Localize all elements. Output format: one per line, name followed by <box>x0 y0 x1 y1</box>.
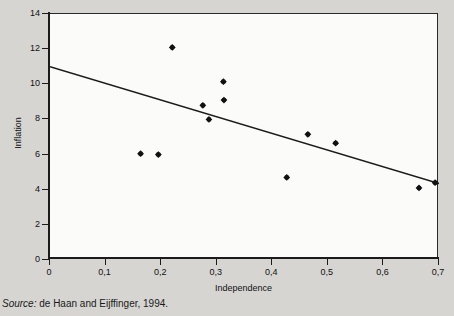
y-axis-tick-mark <box>42 48 49 49</box>
data-point-core <box>285 176 289 180</box>
data-point-core <box>221 80 225 84</box>
y-axis-tick-mark <box>42 83 49 84</box>
y-axis-line <box>48 12 50 260</box>
x-axis-tick-mark <box>160 259 161 265</box>
y-axis-tick-mark <box>42 154 49 155</box>
x-axis-tick-label: 0,2 <box>140 268 180 277</box>
data-point-core <box>306 132 310 136</box>
source-citation: de Haan and Eijffinger, 1994. <box>36 298 168 309</box>
y-axis-tick-label: 12 <box>10 44 40 53</box>
x-axis-tick-label: 0,5 <box>307 268 347 277</box>
data-point-core <box>201 103 205 107</box>
y-axis-tick-mark <box>42 13 49 14</box>
data-point-core <box>170 45 174 49</box>
y-axis-tick-mark <box>42 259 49 260</box>
x-axis-tick-mark <box>327 259 328 265</box>
source-note: Source: de Haan and Eijffinger, 1994. <box>2 298 168 309</box>
scatter-plot-canvas <box>50 14 439 260</box>
data-point-core <box>222 98 226 102</box>
data-point-core <box>156 153 160 157</box>
x-axis-tick-mark <box>49 259 50 265</box>
data-point-core <box>433 181 437 185</box>
plot-area <box>50 14 437 258</box>
x-axis-tick-label: 0,6 <box>362 268 402 277</box>
x-axis-tick-label: 0,4 <box>251 268 291 277</box>
x-axis-tick-label: 0,3 <box>196 268 236 277</box>
data-point-core <box>139 152 143 156</box>
x-axis-tick-mark <box>105 259 106 265</box>
plot-frame <box>49 13 438 259</box>
y-axis-tick-label: 10 <box>10 79 40 88</box>
x-axis-tick-label: 0,1 <box>85 268 125 277</box>
data-point-core <box>334 141 338 145</box>
x-axis-tick-mark <box>438 259 439 265</box>
x-axis-tick-mark <box>271 259 272 265</box>
y-axis-tick-label: 2 <box>10 220 40 229</box>
y-axis-title: Inflation <box>13 98 23 168</box>
y-axis-tick-label: 4 <box>10 185 40 194</box>
data-point-core <box>207 118 211 122</box>
x-axis-tick-label: 0,7 <box>418 268 454 277</box>
trendline-segment <box>50 67 439 184</box>
source-label: Source: <box>2 298 36 309</box>
figure-scatter-inflation-independence: 02468101214 00,10,20,30,40,50,60,7 Infla… <box>0 0 454 316</box>
y-axis-tick-mark <box>42 224 49 225</box>
y-axis-tick-label: 14 <box>10 9 40 18</box>
y-axis-tick-mark <box>42 189 49 190</box>
x-axis-tick-mark <box>216 259 217 265</box>
y-axis-tick-mark <box>42 118 49 119</box>
x-axis-tick-mark <box>382 259 383 265</box>
x-axis-title: Independence <box>49 283 438 293</box>
y-axis-tick-label: 0 <box>10 255 40 264</box>
data-point-core <box>417 186 421 190</box>
trendline <box>50 67 439 184</box>
x-axis-line <box>48 257 439 259</box>
x-axis-tick-label: 0 <box>29 268 69 277</box>
